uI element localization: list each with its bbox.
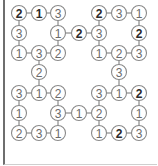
node-digit: 1 (55, 127, 62, 141)
node-digit: 3 (36, 47, 43, 61)
node-digit: 2 (96, 7, 103, 21)
number-node[interactable]: 1 (112, 86, 127, 101)
node-digit: 1 (96, 47, 103, 61)
node-digit: 3 (116, 7, 123, 21)
puzzle-board: 213231312321321232331231213121231123 (0, 0, 158, 166)
node-digit: 2 (55, 47, 62, 61)
node-digit: 3 (96, 27, 103, 41)
number-node[interactable]: 3 (132, 126, 147, 141)
number-node[interactable]: 1 (32, 86, 47, 101)
number-node[interactable]: 3 (12, 86, 27, 101)
node-digit: 2 (76, 27, 83, 41)
node-digit: 2 (116, 127, 123, 141)
node-digit: 2 (136, 87, 143, 101)
node-digit: 2 (96, 107, 103, 121)
node-digit: 2 (55, 87, 62, 101)
number-node[interactable]: 3 (112, 65, 127, 80)
number-node[interactable]: 3 (51, 106, 66, 121)
number-node[interactable]: 2 (92, 6, 107, 21)
number-node[interactable]: 2 (132, 86, 147, 101)
number-node[interactable]: 2 (72, 26, 87, 41)
number-node[interactable]: 2 (132, 26, 147, 41)
node-digit: 1 (76, 107, 83, 121)
number-node[interactable]: 1 (132, 106, 147, 121)
number-node[interactable]: 1 (92, 126, 107, 141)
node-digit: 3 (116, 66, 123, 80)
node-digit: 3 (55, 107, 62, 121)
number-node[interactable]: 1 (12, 106, 27, 121)
number-node[interactable]: 3 (112, 6, 127, 21)
node-digit: 2 (116, 47, 123, 61)
node-digit: 3 (16, 27, 23, 41)
number-node[interactable]: 2 (112, 126, 127, 141)
node-digit: 3 (136, 127, 143, 141)
number-node[interactable]: 1 (51, 26, 66, 41)
number-node[interactable]: 2 (12, 6, 27, 21)
number-node[interactable]: 1 (51, 126, 66, 141)
node-digit: 2 (16, 7, 23, 21)
node-digit: 1 (136, 7, 143, 21)
number-node[interactable]: 2 (51, 86, 66, 101)
number-node[interactable]: 2 (112, 46, 127, 61)
number-node[interactable]: 1 (72, 106, 87, 121)
node-digit: 1 (116, 87, 123, 101)
number-node[interactable]: 3 (92, 86, 107, 101)
number-node[interactable]: 3 (32, 126, 47, 141)
number-node[interactable]: 3 (92, 26, 107, 41)
node-digit: 1 (16, 47, 23, 61)
node-digit: 3 (136, 47, 143, 61)
node-digit: 2 (136, 27, 143, 41)
node-digit: 1 (136, 107, 143, 121)
number-node[interactable]: 3 (132, 46, 147, 61)
number-node[interactable]: 2 (51, 46, 66, 61)
node-digit: 3 (55, 7, 62, 21)
number-node[interactable]: 2 (12, 126, 27, 141)
node-digit: 1 (36, 87, 43, 101)
node-digit: 1 (36, 7, 43, 21)
node-digit: 3 (96, 87, 103, 101)
number-node[interactable]: 1 (132, 6, 147, 21)
number-node[interactable]: 2 (32, 65, 47, 80)
number-nodes: 213231312321321232331231213121231123 (12, 6, 147, 141)
node-digit: 1 (96, 127, 103, 141)
number-node[interactable]: 1 (92, 46, 107, 61)
number-node[interactable]: 1 (32, 6, 47, 21)
node-digit: 3 (36, 127, 43, 141)
number-node[interactable]: 3 (32, 46, 47, 61)
number-node[interactable]: 3 (51, 6, 66, 21)
number-node[interactable]: 2 (92, 106, 107, 121)
node-digit: 2 (16, 127, 23, 141)
node-digit: 1 (55, 27, 62, 41)
node-digit: 3 (16, 87, 23, 101)
number-node[interactable]: 1 (12, 46, 27, 61)
number-node[interactable]: 3 (12, 26, 27, 41)
node-digit: 1 (16, 107, 23, 121)
node-digit: 2 (36, 66, 43, 80)
